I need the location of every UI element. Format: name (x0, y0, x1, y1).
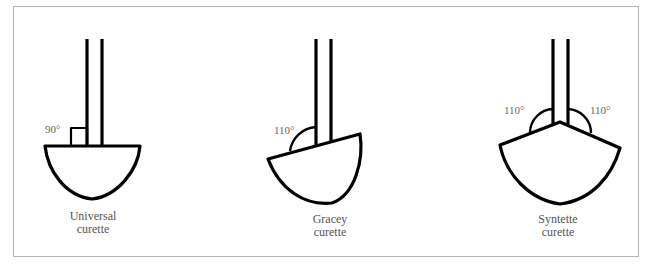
syntette-curette-caption: Syntette curette (503, 213, 613, 239)
universal-curette-caption: Universal curette (38, 210, 148, 236)
caption-line-2: curette (275, 226, 385, 239)
syntette-left-angle-label: 110° (504, 104, 525, 116)
gracey-angle-label: 110° (274, 124, 295, 136)
gracey-curette-caption: Gracey curette (275, 213, 385, 239)
caption-line-2: curette (38, 223, 148, 236)
universal-curette-drawing (45, 39, 140, 199)
universal-angle-label: 90° (45, 123, 60, 135)
syntette-right-angle-label: 110° (590, 104, 611, 116)
caption-line-2: curette (503, 226, 613, 239)
gracey-curette-drawing (268, 39, 361, 203)
syntette-curette-drawing (500, 39, 620, 204)
